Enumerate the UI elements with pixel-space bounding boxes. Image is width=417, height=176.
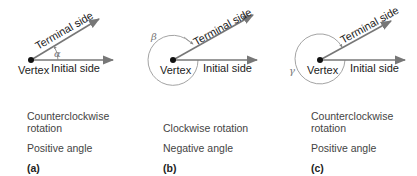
angle-sign: Positive angle (27, 142, 109, 154)
rotation-line-2: rotation (27, 122, 109, 134)
terminal-side-label: Terminal side (338, 4, 401, 46)
vertex-point (317, 57, 323, 63)
vertex-label: Vertex (18, 64, 50, 76)
rotation-line-1 (163, 110, 248, 122)
vertex-point (170, 57, 176, 63)
angle-sign: Positive angle (311, 142, 393, 154)
rotation-line-1: Counterclockwise (27, 110, 109, 122)
vertex-label: Vertex (307, 64, 339, 76)
angle-symbol-beta: β (150, 31, 157, 42)
caption-b: Clockwise rotation Negative angle (b) (163, 110, 248, 174)
angle-symbol-alpha: α (54, 48, 61, 59)
angle-symbol-gamma: γ (289, 65, 295, 76)
panel-tag: (b) (163, 162, 248, 174)
panel-a-diagram: α Terminal side Vertex Initial side (18, 9, 113, 76)
panel-b-diagram: β Terminal side Vertex Initial side (148, 6, 257, 86)
panel-tag: (a) (27, 162, 109, 174)
rotation-line-1: Counterclockwise (311, 110, 393, 122)
rotation-line-2: Clockwise rotation (163, 122, 248, 134)
panel-tag: (c) (311, 162, 393, 174)
terminal-side-label: Terminal side (33, 9, 95, 52)
vertex-point (28, 57, 34, 63)
initial-side-label: Initial side (51, 62, 100, 74)
panel-c-diagram: γ Terminal side Vertex Initial side (289, 4, 405, 84)
caption-a: Counterclockwise rotation Positive angle… (27, 110, 109, 174)
caption-c: Counterclockwise rotation Positive angle… (311, 110, 393, 174)
initial-side-label: Initial side (203, 62, 252, 74)
vertex-label: Vertex (160, 64, 192, 76)
rotation-line-2: rotation (311, 122, 393, 134)
initial-side-label: Initial side (350, 62, 399, 74)
angle-sign: Negative angle (163, 142, 248, 154)
terminal-side-label: Terminal side (191, 6, 254, 48)
